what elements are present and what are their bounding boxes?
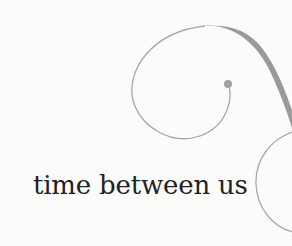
cover-title: time between us (33, 170, 248, 200)
decorative-flourish-icon (0, 0, 292, 246)
